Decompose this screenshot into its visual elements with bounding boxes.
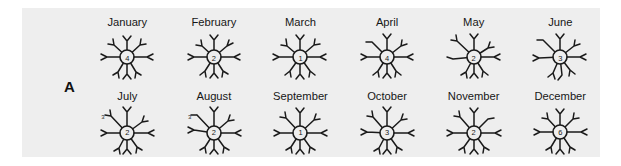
neuron-cell: January bbox=[84, 14, 171, 86]
month-label: November bbox=[448, 90, 500, 103]
neuron-cell: June bbox=[517, 14, 604, 86]
panel-label-a: A bbox=[64, 78, 75, 95]
neuron-cell: February bbox=[171, 14, 258, 86]
neuron-diagram: 2 3 bbox=[92, 104, 162, 158]
neuron-diagram: 1 bbox=[265, 104, 335, 158]
month-label: July bbox=[117, 90, 137, 103]
month-label: December bbox=[534, 90, 586, 103]
month-label: May bbox=[463, 16, 484, 29]
month-label: February bbox=[192, 16, 237, 29]
neuron-diagram: 1 bbox=[265, 30, 335, 84]
neuron-diagram: 2 bbox=[439, 104, 509, 158]
neuron-diagram: 2 bbox=[179, 30, 249, 84]
figure-panel: A January bbox=[22, 8, 600, 157]
neuron-cell: March bbox=[257, 14, 344, 86]
neuron-cell: August bbox=[171, 88, 258, 160]
neuron-cell: May bbox=[430, 14, 517, 86]
neuron-cell: December bbox=[517, 88, 604, 160]
neuron-diagram: 3 bbox=[352, 104, 422, 158]
neuron-cell: October bbox=[344, 88, 431, 160]
neuron-cell: November bbox=[430, 88, 517, 160]
neuron-diagram: 2 3 bbox=[179, 104, 249, 158]
month-label: January bbox=[107, 16, 147, 29]
neuron-diagram: 4 bbox=[352, 30, 422, 84]
neuron-diagram: 3 bbox=[525, 30, 595, 84]
dendrite-note: 3 bbox=[101, 114, 104, 120]
neuron-diagram: 6 bbox=[525, 104, 595, 158]
month-label: August bbox=[196, 90, 231, 103]
month-label: April bbox=[376, 16, 398, 29]
neuron-cell: September bbox=[257, 88, 344, 160]
neuron-row-first-half: January bbox=[84, 14, 604, 86]
dendrite-note: 3 bbox=[188, 114, 191, 120]
month-label: September bbox=[273, 90, 328, 103]
neuron-grid: January bbox=[84, 12, 604, 157]
neuron-cell: April bbox=[344, 14, 431, 86]
month-label: March bbox=[285, 16, 316, 29]
month-label: June bbox=[548, 16, 572, 29]
neuron-row-second-half: July bbox=[84, 88, 604, 160]
month-label: October bbox=[367, 90, 407, 103]
neuron-cell: July bbox=[84, 88, 171, 160]
neuron-diagram: 4 bbox=[92, 30, 162, 84]
neuron-diagram: 2 bbox=[439, 30, 509, 84]
